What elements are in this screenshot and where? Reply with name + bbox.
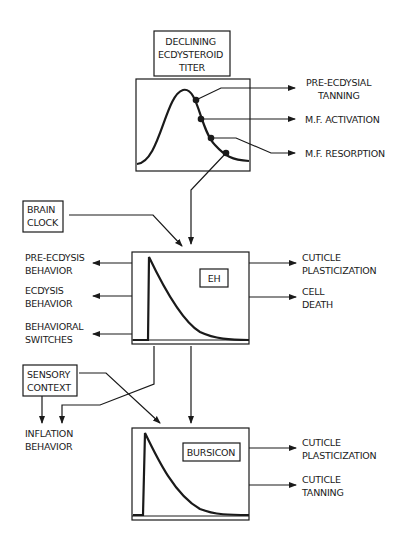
output-mf-activation: M.F. ACTIVATION bbox=[305, 114, 380, 125]
output-eh-cuticle-plasticization: CUTICLE PLASTICIZATION bbox=[302, 252, 377, 276]
output-behavioral-switches: BEHAVIORAL SWITCHES bbox=[25, 321, 86, 345]
output-inflation-behavior: INFLATION BEHAVIOR bbox=[25, 428, 76, 452]
sensory-context-label: SENSORY CONTEXT bbox=[27, 369, 73, 393]
bursicon-label: BURSICON bbox=[187, 447, 236, 458]
output-cell-death: CELL DEATH bbox=[302, 286, 333, 310]
ecdysteroid-title: DECLINING ECDYSTEROID TITER bbox=[158, 36, 226, 73]
output-cuticle-tanning: CUTICLE TANNING bbox=[301, 474, 344, 498]
brain-clock-label: BRAIN CLOCK bbox=[27, 204, 59, 228]
bursicon-curve bbox=[133, 433, 249, 515]
hormone-cascade-diagram: DECLINING ECDYSTEROID TITER PRE-ECDYSIAL… bbox=[0, 0, 408, 546]
output-pre-ecdysis-behavior: PRE-ECDYSIS BEHAVIOR bbox=[25, 252, 88, 276]
output-bursicon-cuticle-plasticization: CUTICLE PLASTICIZATION bbox=[302, 437, 377, 461]
eh-label: EH bbox=[208, 273, 221, 284]
output-pre-ecdysial-tanning: PRE-ECDYSIAL TANNING bbox=[306, 77, 374, 101]
output-ecdysis-behavior: ECDYSIS BEHAVIOR bbox=[25, 285, 73, 309]
eh-curve bbox=[133, 257, 249, 340]
output-mf-resorption: M.F. RESORPTION bbox=[305, 148, 385, 159]
